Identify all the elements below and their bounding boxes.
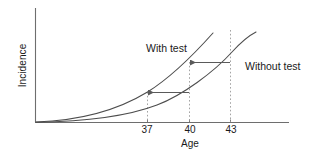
curve-label-with-test: With test: [146, 43, 187, 54]
x-tick-label-43: 43: [217, 124, 245, 135]
incidence-age-chart: Incidence 37 40 43 Age With test Without…: [0, 0, 320, 157]
curve-label-without-test: Without test: [245, 61, 300, 72]
x-tick-label-40: 40: [176, 124, 204, 135]
x-tick-label-37: 37: [133, 124, 161, 135]
y-axis-label: Incidence: [17, 30, 28, 102]
x-axis-label: Age: [175, 138, 205, 149]
